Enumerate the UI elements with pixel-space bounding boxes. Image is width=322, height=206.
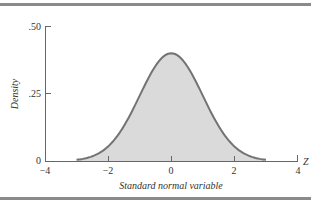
- x-tick-label-4: 4: [296, 165, 301, 176]
- x-tick-label-2: 2: [232, 165, 237, 176]
- x-tick-label-m4: −4: [40, 165, 51, 176]
- density-area: [77, 53, 266, 161]
- x-tick-label-m2: −2: [103, 165, 114, 176]
- x-tick-label-0: 0: [169, 165, 174, 176]
- y-axis-title: Density: [9, 78, 20, 110]
- x-axis-title: Standard normal variable: [119, 180, 223, 191]
- z-axis-label: Z: [303, 156, 309, 167]
- y-tick-label-25: .25: [29, 88, 42, 99]
- normal-density-chart: .50 .25 0 −4 −2 0 2 4 Z Standard normal …: [0, 0, 322, 206]
- y-tick-label-50: .50: [29, 21, 42, 32]
